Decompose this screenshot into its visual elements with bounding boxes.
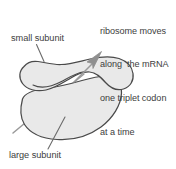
small-subunit-label: small subunit — [11, 33, 64, 44]
mrna-movement-annotation: ribosome moves along the mRNA one triple… — [100, 3, 169, 161]
annotation-line-2: along the mRNA — [100, 59, 169, 70]
diagram-canvas: ribosome moves along the mRNA one triple… — [0, 0, 176, 169]
small-subunit-leader-line — [37, 45, 45, 62]
large-subunit-label: large subunit — [9, 150, 61, 161]
annotation-line-1: ribosome moves — [100, 26, 169, 37]
annotation-line-3: one triplet codon — [100, 93, 169, 104]
annotation-line-4: at a time — [100, 127, 169, 138]
